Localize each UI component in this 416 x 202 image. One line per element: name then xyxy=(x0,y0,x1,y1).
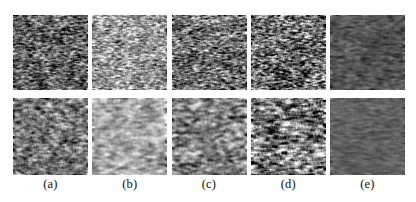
figure-root: (a) (b) (c) (d) (e) xyxy=(0,0,416,202)
panel-row1-a-canvas xyxy=(13,15,88,90)
panel-row2-d xyxy=(251,98,326,175)
panel-caption-b: (b) xyxy=(92,176,167,193)
panel-row1-c xyxy=(172,15,247,90)
panel-grid xyxy=(13,15,405,175)
caption-row: (a) (b) (c) (d) (e) xyxy=(13,176,405,193)
panel-row1-d xyxy=(251,15,326,90)
panel-row1-a xyxy=(13,15,88,90)
panel-caption-e: (e) xyxy=(330,176,405,193)
panel-row2-a xyxy=(13,98,88,175)
panel-row1-b xyxy=(92,15,167,90)
panel-row1-b-canvas xyxy=(92,15,167,90)
panel-caption-c: (c) xyxy=(172,176,247,193)
panel-row2-b-canvas xyxy=(92,98,167,175)
panel-row2-d-canvas xyxy=(251,98,326,175)
panel-row1-c-canvas xyxy=(172,15,247,90)
panel-row2-e xyxy=(330,98,405,175)
panel-row1-d-canvas xyxy=(251,15,326,90)
panel-row1-e-canvas xyxy=(330,15,405,90)
panel-row2-c-canvas xyxy=(172,98,247,175)
panel-row2-c xyxy=(172,98,247,175)
panel-row1-e xyxy=(330,15,405,90)
panel-row2-e-canvas xyxy=(330,98,405,175)
panel-row2-b xyxy=(92,98,167,175)
panel-caption-a: (a) xyxy=(13,176,88,193)
panel-caption-d: (d) xyxy=(251,176,326,193)
panel-row2-a-canvas xyxy=(13,98,88,175)
